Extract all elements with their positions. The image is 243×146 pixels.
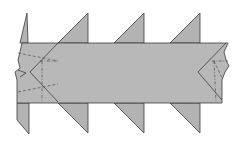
top-flap (58, 13, 88, 43)
bottom-left-strip (17, 103, 29, 134)
top-flap (114, 13, 144, 43)
bottom-flaps (17, 103, 200, 134)
top-flap (170, 13, 200, 43)
origami-diagram (0, 0, 243, 146)
bottom-flap (170, 103, 200, 133)
paper-band (15, 43, 229, 103)
bottom-flap (58, 103, 88, 133)
bottom-flap (114, 103, 144, 133)
top-flaps (20, 13, 200, 43)
top-left-edge (20, 13, 28, 43)
